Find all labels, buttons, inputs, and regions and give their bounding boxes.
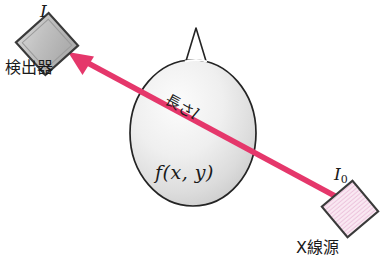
attenuation-function-label: f(x, y) — [155, 163, 214, 182]
detector-label: 検出器 — [5, 60, 53, 76]
figure-canvas — [0, 0, 382, 262]
xray-source-square[interactable] — [322, 181, 378, 237]
xray-ct-projection-figure: I 検出器 長さl f(x, y) I0 X線源 — [0, 0, 382, 262]
source-intensity-symbol: I — [334, 164, 341, 184]
xray-source-square-body — [322, 181, 378, 237]
source-intensity-subscript: 0 — [341, 173, 348, 186]
source-intensity-label: I0 — [334, 166, 348, 185]
nose-triangle — [186, 28, 206, 61]
detector-intensity-label: I — [40, 3, 47, 20]
head-phantom-ellipse — [130, 60, 256, 206]
xray-source-label: X線源 — [296, 240, 339, 256]
